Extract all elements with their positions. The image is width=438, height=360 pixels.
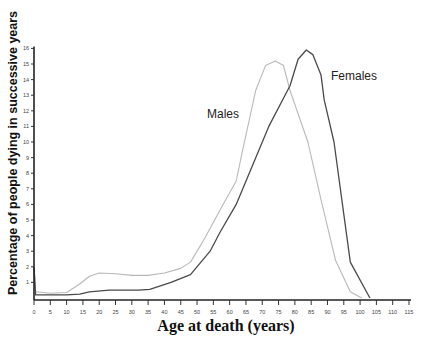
y-tick-label: 12 bbox=[23, 108, 29, 114]
y-tick-label: 5 bbox=[26, 217, 29, 223]
x-tick-label: 110 bbox=[388, 309, 397, 315]
x-tick-label: 80 bbox=[292, 309, 298, 315]
series-label-males: Males bbox=[207, 107, 239, 121]
series-line-males bbox=[34, 61, 362, 298]
y-tick-label: 2 bbox=[26, 264, 29, 270]
x-tick-label: 55 bbox=[210, 309, 216, 315]
y-tick-label: 6 bbox=[26, 201, 29, 207]
x-tick-label: 105 bbox=[372, 309, 381, 315]
x-tick-label: 75 bbox=[276, 309, 282, 315]
x-tick-label: 30 bbox=[129, 309, 135, 315]
x-tick-label: 40 bbox=[161, 309, 167, 315]
x-tick-label: 15 bbox=[80, 309, 86, 315]
x-tick-label: 50 bbox=[194, 309, 200, 315]
axes: 0510152025303540455055606570758085909510… bbox=[23, 45, 414, 315]
series-line-females bbox=[34, 50, 370, 298]
x-tick-label: 115 bbox=[405, 309, 414, 315]
y-axis-label: Percentage of people dying in successive… bbox=[6, 11, 20, 295]
x-axis-label: Age at death (years) bbox=[157, 317, 294, 335]
y-tick-label: 1 bbox=[26, 279, 29, 285]
y-tick-label: 3 bbox=[26, 248, 29, 254]
x-tick-label: 10 bbox=[64, 309, 70, 315]
x-tick-label: 5 bbox=[49, 309, 52, 315]
x-tick-label: 45 bbox=[178, 309, 184, 315]
y-tick-label: 11 bbox=[23, 123, 29, 129]
y-tick-label: 7 bbox=[26, 186, 29, 192]
x-tick-label: 35 bbox=[145, 309, 151, 315]
x-tick-label: 60 bbox=[227, 309, 233, 315]
y-tick-label: 15 bbox=[23, 61, 29, 67]
y-tick-label: 13 bbox=[23, 92, 29, 98]
x-tick-label: 25 bbox=[112, 309, 118, 315]
y-tick-label: 10 bbox=[23, 139, 29, 145]
line-chart: 0510152025303540455055606570758085909510… bbox=[0, 0, 438, 360]
x-tick-label: 90 bbox=[324, 309, 330, 315]
x-tick-label: 0 bbox=[32, 309, 35, 315]
x-tick-label: 100 bbox=[355, 309, 364, 315]
y-tick-label: 9 bbox=[26, 155, 29, 161]
x-tick-label: 65 bbox=[243, 309, 249, 315]
x-tick-label: 95 bbox=[341, 309, 347, 315]
y-tick-label: 8 bbox=[26, 170, 29, 176]
y-tick-label: 4 bbox=[26, 233, 29, 239]
y-tick-label: 14 bbox=[23, 77, 29, 83]
x-tick-label: 70 bbox=[259, 309, 265, 315]
y-tick-label: 16 bbox=[23, 45, 29, 51]
x-tick-label: 85 bbox=[308, 309, 314, 315]
plot-lines bbox=[34, 50, 370, 298]
series-label-females: Females bbox=[331, 69, 377, 83]
x-tick-label: 20 bbox=[96, 309, 102, 315]
